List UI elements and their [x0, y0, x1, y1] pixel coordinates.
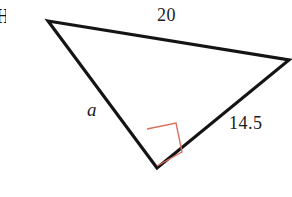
side-label-right: 14.5: [229, 114, 263, 132]
triangle-outline: [48, 21, 289, 168]
triangle-figure: H 20 14.5 a: [0, 0, 292, 197]
side-label-top: 20: [157, 6, 176, 24]
triangle-drawing: [0, 0, 292, 197]
side-label-left-unknown: a: [87, 100, 97, 119]
